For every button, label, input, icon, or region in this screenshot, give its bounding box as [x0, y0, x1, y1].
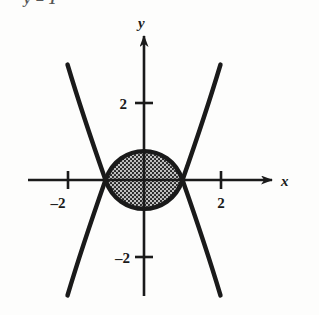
- x-tick-label-2: 2: [217, 195, 225, 211]
- graph-canvas: x y –2 2 2 –2: [0, 0, 319, 315]
- y-tick-label-minus2: –2: [114, 250, 130, 266]
- x-axis-label: x: [280, 173, 289, 189]
- parabola-region-figure: y = 1: [0, 0, 319, 315]
- x-tick-label-minus2: –2: [50, 195, 66, 211]
- y-axis-label: y: [136, 15, 145, 31]
- y-tick-label-2: 2: [120, 96, 128, 112]
